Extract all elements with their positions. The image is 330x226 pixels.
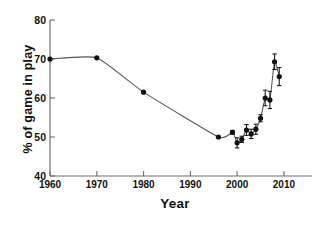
x-tick-label: 1960 [30,179,70,190]
chart-figure: % of game in play 4050607080 19601970198… [0,0,330,226]
data-point [230,130,235,135]
data-point [235,140,240,145]
data-point [239,137,244,142]
x-tick-label: 1980 [124,179,164,190]
y-tick-label: 60 [20,92,46,104]
data-point [272,59,277,64]
data-point [277,74,282,79]
data-point [47,56,52,61]
y-tick-label: 80 [20,14,46,26]
x-tick-label: 2010 [264,179,304,190]
x-tick-label: 1990 [170,179,210,190]
data-point [141,90,146,95]
y-tick-label: 70 [20,53,46,65]
data-point [249,131,254,136]
data-point [244,127,249,132]
chart-canvas [50,20,312,176]
data-point [253,127,258,132]
data-point [258,116,263,121]
x-axis-label: Year [50,196,300,211]
data-point [267,97,272,102]
data-point [216,134,221,139]
y-tick-label: 50 [20,131,46,143]
x-tick-label: 2000 [217,179,257,190]
plot-area [50,20,312,176]
x-tick-label: 1970 [77,179,117,190]
data-point [94,55,99,60]
data-point [263,95,268,100]
